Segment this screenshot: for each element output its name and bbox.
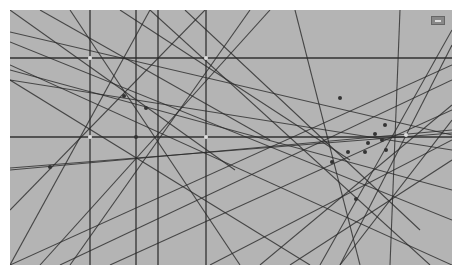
intersection-point[interactable]	[134, 135, 138, 139]
intersection-point[interactable]	[88, 56, 92, 60]
intersection-point[interactable]	[338, 96, 342, 100]
arrangement-line	[340, 120, 452, 265]
arrangement-line	[320, 30, 452, 265]
arrangement-line	[10, 10, 205, 210]
intersection-point[interactable]	[346, 150, 350, 154]
arrangement-line	[260, 105, 452, 265]
arrangement-line	[10, 10, 235, 170]
intersection-point[interactable]	[122, 94, 126, 98]
intersection-point[interactable]	[48, 165, 52, 169]
arrangement-line	[10, 80, 310, 265]
line-arrangement-canvas[interactable]	[10, 10, 452, 265]
arrangement-line	[290, 160, 452, 265]
intersection-point[interactable]	[366, 141, 370, 145]
intersection-point[interactable]	[404, 133, 408, 137]
intersection-point[interactable]	[373, 132, 377, 136]
window-restore-button[interactable]	[431, 16, 445, 25]
lines-layer	[10, 10, 452, 265]
intersection-point[interactable]	[88, 135, 92, 139]
intersection-point[interactable]	[384, 148, 388, 152]
intersection-point[interactable]	[330, 160, 334, 164]
intersection-point[interactable]	[363, 150, 367, 154]
arrangement-line	[10, 70, 452, 190]
arrangement-line	[340, 45, 452, 265]
intersection-point[interactable]	[354, 197, 358, 201]
intersection-point[interactable]	[204, 135, 208, 139]
window-restore-icon	[435, 20, 441, 22]
arrangement-line	[40, 10, 270, 140]
arrangement-line	[10, 42, 452, 220]
intersection-point[interactable]	[383, 123, 387, 127]
intersection-point[interactable]	[380, 138, 384, 142]
intersection-point[interactable]	[204, 56, 208, 60]
intersection-point[interactable]	[144, 106, 148, 110]
